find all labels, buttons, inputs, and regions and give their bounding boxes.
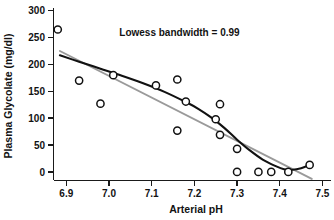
y-tick-label: 100 bbox=[28, 113, 45, 124]
data-point-marker bbox=[216, 131, 223, 138]
x-axis-ticks: 6.97.07.17.27.37.47.5 bbox=[59, 181, 329, 200]
y-axis-title: Plasma Glycolate (mg/dl) bbox=[2, 34, 14, 159]
data-point-marker bbox=[174, 76, 181, 83]
y-tick-label: 300 bbox=[28, 5, 45, 16]
data-point-marker bbox=[233, 168, 240, 175]
x-axis-title: Arterial pH bbox=[169, 203, 223, 215]
x-tick-label: 7.3 bbox=[230, 188, 244, 199]
y-tick-label: 150 bbox=[28, 86, 45, 97]
x-tick-label: 7.0 bbox=[102, 188, 116, 199]
data-point-marker bbox=[285, 168, 292, 175]
y-tick-label: 0 bbox=[39, 167, 45, 178]
y-tick-label: 200 bbox=[28, 59, 45, 70]
y-tick-label: 50 bbox=[34, 140, 46, 151]
lowess-curve bbox=[60, 55, 310, 170]
x-tick-label: 7.2 bbox=[187, 188, 201, 199]
data-point-marker bbox=[54, 26, 61, 33]
x-tick-label: 7.1 bbox=[145, 188, 159, 199]
chart-figure: 050100150200250300 6.97.07.17.27.37.47.5… bbox=[0, 0, 334, 220]
data-point-marker bbox=[268, 168, 275, 175]
data-point-marker bbox=[233, 145, 240, 152]
data-point-marker bbox=[306, 161, 313, 168]
data-point-marker bbox=[174, 127, 181, 134]
x-tick-label: 6.9 bbox=[59, 188, 73, 199]
data-point-marker bbox=[152, 82, 159, 89]
data-point-marker bbox=[76, 77, 83, 84]
data-point-marker bbox=[212, 116, 219, 123]
scatter-plot-canvas: 050100150200250300 6.97.07.17.27.37.47.5… bbox=[0, 0, 334, 220]
lowess-bandwidth-annotation: Lowess bandwidth = 0.99 bbox=[119, 27, 240, 38]
reference-line bbox=[60, 51, 312, 179]
x-tick-label: 7.4 bbox=[273, 188, 287, 199]
data-point-marker bbox=[110, 72, 117, 79]
x-tick-label: 7.5 bbox=[316, 188, 330, 199]
data-point-marker bbox=[216, 101, 223, 108]
data-point-marker bbox=[182, 98, 189, 105]
y-tick-label: 250 bbox=[28, 32, 45, 43]
y-axis-ticks: 050100150200250300 bbox=[28, 5, 53, 177]
data-point-marker bbox=[97, 100, 104, 107]
data-point-marker bbox=[255, 168, 262, 175]
data-point-markers bbox=[54, 26, 313, 176]
